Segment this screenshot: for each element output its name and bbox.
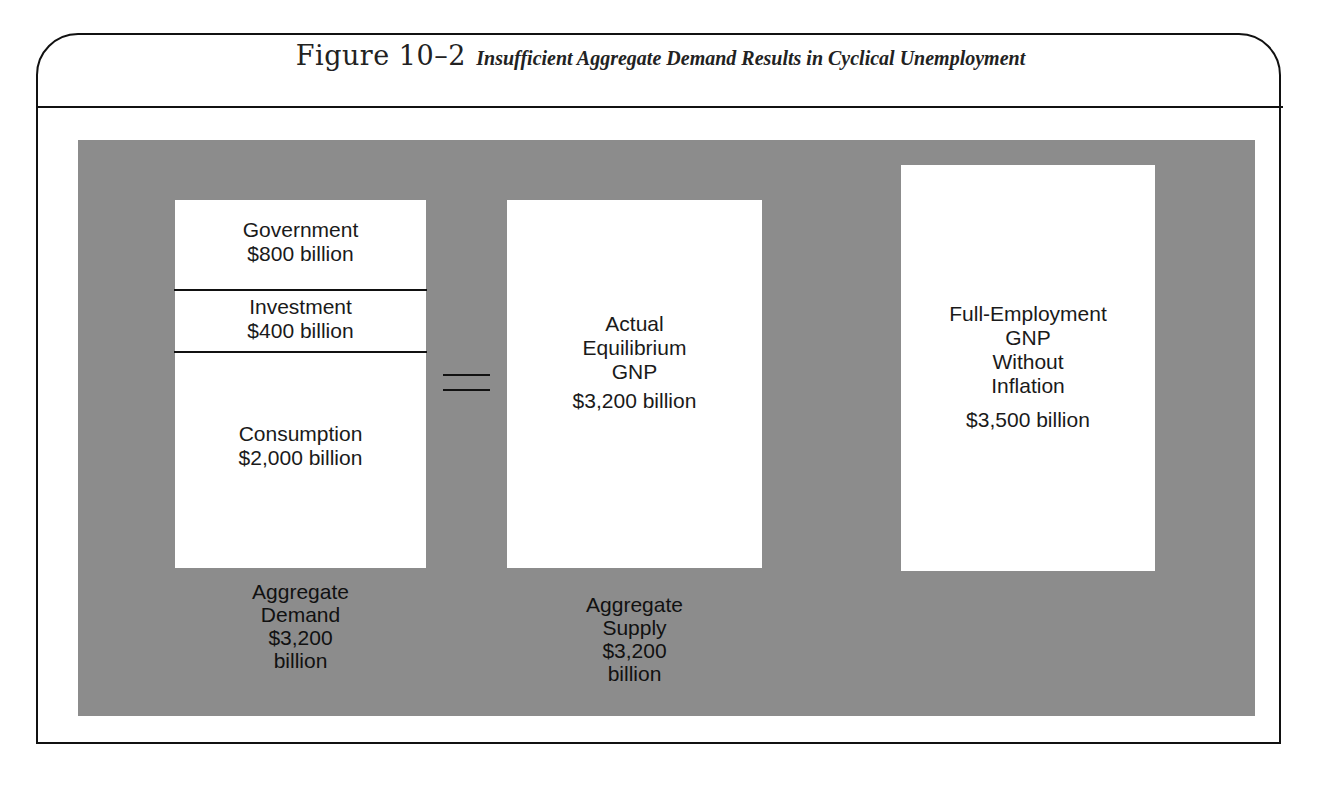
caption-line: Demand [175, 603, 426, 626]
segment-label: Consumption [175, 422, 426, 446]
aggregate-demand-box: Government $800 billion Investment $400 … [175, 200, 426, 568]
figure-caption: Insufficient Aggregate Demand Results in… [476, 47, 1025, 69]
aggregate-demand-caption: Aggregate Demand $3,200 billion [175, 580, 426, 672]
box-line: Without [901, 350, 1155, 374]
segment-consumption: Consumption $2,000 billion [175, 422, 426, 470]
figure-number: Figure 10–2 [296, 40, 466, 71]
segment-value: $2,000 billion [175, 446, 426, 470]
segment-government: Government $800 billion [175, 218, 426, 266]
full-employment-gnp-box: Full-Employment GNP Without Inflation $3… [901, 165, 1155, 571]
caption-line: Supply [507, 616, 762, 639]
segment-divider [174, 351, 427, 353]
box-line: Full-Employment [901, 302, 1155, 326]
equals-sign-top-bar [443, 374, 490, 376]
segment-label: Investment [175, 295, 426, 319]
full-employment-text: Full-Employment GNP Without Inflation $3… [901, 302, 1155, 432]
caption-line: $3,200 [507, 639, 762, 662]
caption-line: Aggregate [175, 580, 426, 603]
title-divider [36, 106, 1283, 108]
box-line: Equilibrium [507, 336, 762, 360]
box-line: Inflation [901, 374, 1155, 398]
segment-investment: Investment $400 billion [175, 295, 426, 343]
segment-value: $400 billion [175, 319, 426, 343]
aggregate-supply-caption: Aggregate Supply $3,200 billion [507, 593, 762, 685]
box-line: GNP [507, 360, 762, 384]
box-line: GNP [901, 326, 1155, 350]
segment-label: Government [175, 218, 426, 242]
actual-gnp-text: Actual Equilibrium GNP $3,200 billion [507, 312, 762, 413]
caption-line: billion [507, 662, 762, 685]
box-value: $3,500 billion [901, 408, 1155, 432]
box-value: $3,200 billion [507, 389, 762, 413]
figure-title: Figure 10–2 Insufficient Aggregate Deman… [0, 40, 1321, 71]
segment-value: $800 billion [175, 242, 426, 266]
actual-gnp-box: Actual Equilibrium GNP $3,200 billion [507, 200, 762, 568]
equals-sign-bottom-bar [443, 389, 490, 391]
caption-line: Aggregate [507, 593, 762, 616]
segment-divider [174, 289, 427, 291]
caption-line: $3,200 [175, 626, 426, 649]
caption-line: billion [175, 649, 426, 672]
box-line: Actual [507, 312, 762, 336]
